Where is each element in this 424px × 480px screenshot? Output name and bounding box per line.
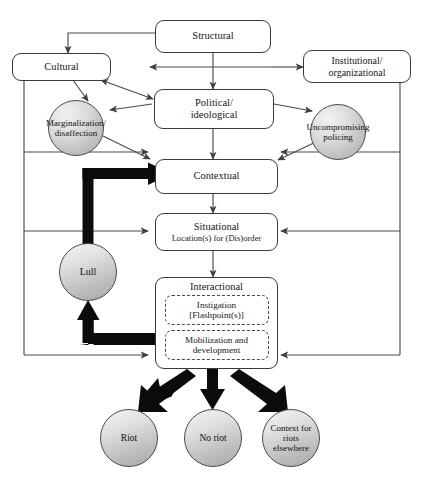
node-cultural[interactable]: Cultural xyxy=(12,53,111,81)
node-political-label: Political/ ideological xyxy=(191,97,238,122)
node-contextual[interactable]: Contextual xyxy=(155,159,278,194)
node-riot-label: Riot xyxy=(121,433,137,444)
node-situational-sublabel: Location(s) for (Dis)order xyxy=(172,233,262,243)
node-cultural-label: Cultural xyxy=(44,61,78,73)
node-context-elsewhere-label: Context for riots elsewhere xyxy=(263,423,319,453)
node-situational-label: Situational xyxy=(194,221,240,233)
node-uncompromising-label: Uncompromising policing xyxy=(307,122,370,142)
node-structural[interactable]: Structural xyxy=(155,20,271,53)
sub-box-instigation[interactable]: Instigation [Flashpoint(s)] xyxy=(165,295,269,325)
node-no-riot[interactable]: No riot xyxy=(184,409,242,467)
node-context-elsewhere[interactable]: Context for riots elsewhere xyxy=(262,409,320,467)
sub-box-mobilization[interactable]: Mobilization and development xyxy=(165,330,269,360)
sub-box-mobilization-label: Mobilization and development xyxy=(185,335,248,357)
node-riot[interactable]: Riot xyxy=(100,409,158,467)
diagram-canvas: Structural Cultural Institutional/ organ… xyxy=(0,0,424,480)
node-uncompromising[interactable]: Uncompromising policing xyxy=(310,104,366,160)
node-lull[interactable]: Lull xyxy=(59,243,117,301)
node-interactional-label: Interactional xyxy=(190,281,243,293)
node-lull-label: Lull xyxy=(80,266,97,277)
node-marginalization-label: Marginalization/ disaffection xyxy=(46,118,106,138)
node-interactional[interactable]: Interactional Instigation [Flashpoint(s)… xyxy=(155,277,278,369)
node-marginalization[interactable]: Marginalization/ disaffection xyxy=(48,100,104,156)
node-political[interactable]: Political/ ideological xyxy=(154,89,274,129)
node-institutional-label: Institutional/ organizational xyxy=(328,55,385,79)
sub-box-instigation-label: Instigation [Flashpoint(s)] xyxy=(189,300,244,322)
node-no-riot-label: No riot xyxy=(199,433,226,444)
node-contextual-label: Contextual xyxy=(193,170,239,182)
node-structural-label: Structural xyxy=(192,30,233,42)
node-institutional[interactable]: Institutional/ organizational xyxy=(303,50,411,83)
node-situational[interactable]: Situational Location(s) for (Dis)order xyxy=(155,213,278,251)
